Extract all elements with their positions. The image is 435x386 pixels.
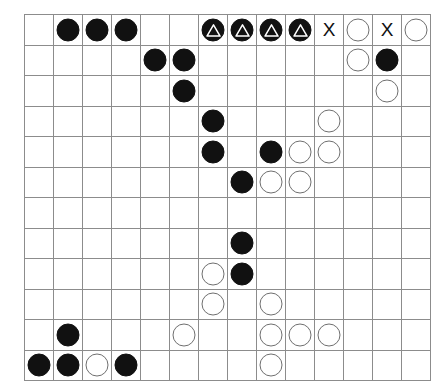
empty-cell[interactable] (315, 167, 344, 198)
empty-cell[interactable] (286, 350, 315, 381)
empty-cell[interactable] (344, 289, 373, 320)
empty-cell[interactable] (315, 76, 344, 107)
empty-cell[interactable] (402, 76, 431, 107)
empty-cell[interactable] (112, 137, 141, 168)
empty-cell[interactable] (286, 198, 315, 229)
white-stone-cell[interactable] (315, 137, 344, 168)
empty-cell[interactable] (315, 45, 344, 76)
empty-cell[interactable] (373, 167, 402, 198)
x-mark-cell[interactable]: X (373, 15, 402, 46)
empty-cell[interactable] (228, 137, 257, 168)
white-stone-cell[interactable] (257, 289, 286, 320)
empty-cell[interactable] (199, 198, 228, 229)
empty-cell[interactable] (199, 320, 228, 351)
empty-cell[interactable] (315, 259, 344, 290)
empty-cell[interactable] (141, 15, 170, 46)
empty-cell[interactable] (83, 259, 112, 290)
empty-cell[interactable] (112, 259, 141, 290)
white-stone-cell[interactable] (257, 167, 286, 198)
black-stone-with-triangle-cell[interactable] (286, 15, 315, 46)
empty-cell[interactable] (286, 106, 315, 137)
empty-cell[interactable] (54, 45, 83, 76)
empty-cell[interactable] (83, 167, 112, 198)
empty-cell[interactable] (199, 76, 228, 107)
empty-cell[interactable] (112, 289, 141, 320)
empty-cell[interactable] (228, 198, 257, 229)
empty-cell[interactable] (170, 106, 199, 137)
empty-cell[interactable] (286, 45, 315, 76)
empty-cell[interactable] (25, 15, 54, 46)
black-stone-with-triangle-cell[interactable] (228, 15, 257, 46)
empty-cell[interactable] (112, 198, 141, 229)
empty-cell[interactable] (344, 106, 373, 137)
black-stone-cell[interactable] (54, 350, 83, 381)
white-stone-cell[interactable] (402, 15, 431, 46)
white-stone-cell[interactable] (344, 45, 373, 76)
empty-cell[interactable] (83, 106, 112, 137)
white-stone-cell[interactable] (286, 137, 315, 168)
empty-cell[interactable] (170, 198, 199, 229)
empty-cell[interactable] (141, 198, 170, 229)
black-stone-cell[interactable] (170, 45, 199, 76)
empty-cell[interactable] (170, 259, 199, 290)
white-stone-cell[interactable] (373, 76, 402, 107)
empty-cell[interactable] (402, 106, 431, 137)
x-mark-cell[interactable]: X (315, 15, 344, 46)
empty-cell[interactable] (25, 198, 54, 229)
black-stone-cell[interactable] (228, 167, 257, 198)
empty-cell[interactable] (286, 228, 315, 259)
black-stone-cell[interactable] (170, 76, 199, 107)
black-stone-with-triangle-cell[interactable] (257, 15, 286, 46)
empty-cell[interactable] (112, 76, 141, 107)
empty-cell[interactable] (373, 259, 402, 290)
empty-cell[interactable] (25, 76, 54, 107)
black-stone-cell[interactable] (257, 137, 286, 168)
white-stone-cell[interactable] (315, 106, 344, 137)
empty-cell[interactable] (170, 137, 199, 168)
empty-cell[interactable] (402, 350, 431, 381)
black-stone-cell[interactable] (54, 320, 83, 351)
empty-cell[interactable] (54, 228, 83, 259)
empty-cell[interactable] (257, 198, 286, 229)
empty-cell[interactable] (141, 289, 170, 320)
empty-cell[interactable] (25, 106, 54, 137)
empty-cell[interactable] (112, 167, 141, 198)
empty-cell[interactable] (83, 137, 112, 168)
black-stone-cell[interactable] (373, 45, 402, 76)
empty-cell[interactable] (373, 289, 402, 320)
empty-cell[interactable] (54, 167, 83, 198)
empty-cell[interactable] (228, 45, 257, 76)
empty-cell[interactable] (54, 137, 83, 168)
white-stone-cell[interactable] (199, 289, 228, 320)
go-board-grid[interactable]: XX (24, 14, 431, 381)
empty-cell[interactable] (402, 45, 431, 76)
empty-cell[interactable] (373, 137, 402, 168)
empty-cell[interactable] (373, 350, 402, 381)
empty-cell[interactable] (199, 45, 228, 76)
empty-cell[interactable] (402, 198, 431, 229)
empty-cell[interactable] (228, 106, 257, 137)
empty-cell[interactable] (402, 320, 431, 351)
empty-cell[interactable] (54, 76, 83, 107)
empty-cell[interactable] (228, 76, 257, 107)
empty-cell[interactable] (141, 320, 170, 351)
white-stone-cell[interactable] (257, 320, 286, 351)
black-stone-with-triangle-cell[interactable] (199, 15, 228, 46)
black-stone-cell[interactable] (228, 228, 257, 259)
empty-cell[interactable] (373, 106, 402, 137)
empty-cell[interactable] (54, 259, 83, 290)
empty-cell[interactable] (315, 350, 344, 381)
empty-cell[interactable] (83, 320, 112, 351)
empty-cell[interactable] (141, 106, 170, 137)
empty-cell[interactable] (54, 198, 83, 229)
empty-cell[interactable] (112, 228, 141, 259)
empty-cell[interactable] (170, 15, 199, 46)
empty-cell[interactable] (257, 259, 286, 290)
white-stone-cell[interactable] (286, 167, 315, 198)
empty-cell[interactable] (402, 167, 431, 198)
black-stone-cell[interactable] (83, 15, 112, 46)
black-stone-cell[interactable] (112, 15, 141, 46)
empty-cell[interactable] (25, 45, 54, 76)
empty-cell[interactable] (228, 350, 257, 381)
empty-cell[interactable] (141, 76, 170, 107)
